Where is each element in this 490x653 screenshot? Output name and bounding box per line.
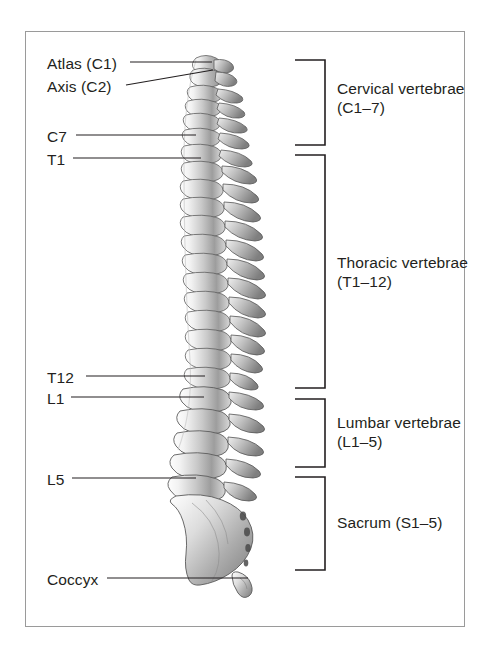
region-label-lumbar-line1: Lumbar vertebrae [337,413,461,432]
region-label-sacrum: Sacrum (S1–5) [337,513,443,532]
region-label-thoracic-line1: Thoracic vertebrae [337,253,468,272]
region-label-cervical-line1: Cervical vertebrae [337,79,465,98]
label-l5: L5 [47,471,64,489]
bracket-cervical [295,60,325,145]
spine-anatomy-figure: Atlas (C1) Axis (C2) C7 T1 T12 L1 L5 Coc… [0,0,490,653]
label-t1: T1 [47,151,65,169]
region-label-cervical-line2: (C1–7) [337,98,465,117]
region-label-cervical: Cervical vertebrae (C1–7) [337,79,465,117]
label-c7: C7 [47,128,67,146]
bracket-lumbar [295,399,325,467]
region-label-lumbar-line2: (L1–5) [337,432,461,451]
label-atlas: Atlas (C1) [47,55,117,73]
bracket-thoracic [295,155,325,388]
label-t12: T12 [47,369,74,387]
region-label-sacrum-line1: Sacrum (S1–5) [337,513,443,532]
label-l1: L1 [47,390,64,408]
label-axis: Axis (C2) [47,78,112,96]
region-label-lumbar: Lumbar vertebrae (L1–5) [337,413,461,451]
region-label-thoracic-line2: (T1–12) [337,272,468,291]
label-coccyx: Coccyx [47,571,98,589]
bracket-sacrum [295,477,325,570]
region-label-thoracic: Thoracic vertebrae (T1–12) [337,253,468,291]
